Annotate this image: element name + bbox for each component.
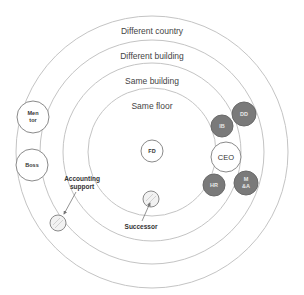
annotation-accounting-line1: Accounting: [64, 175, 100, 183]
node-mentor-label-line2: tor: [29, 117, 37, 123]
node-successor: [143, 191, 159, 207]
ring-label-different-building: Different building: [120, 51, 184, 61]
node-ceo-label: CEO: [218, 153, 234, 162]
ring-label-same-building: Same building: [125, 76, 179, 86]
node-dd: DD: [232, 102, 256, 126]
node-accounting-support: [50, 215, 66, 231]
node-dd-label: DD: [240, 111, 248, 117]
node-fd-label: FD: [148, 148, 155, 154]
node-hr: HR: [203, 174, 225, 196]
node-ma-label-line2: &A: [242, 183, 250, 189]
node-ceo: CEO: [211, 142, 241, 172]
ring-label-different-country: Different country: [121, 26, 184, 36]
arrow-accounting: [64, 192, 76, 214]
annotation-accounting-line2: support: [70, 183, 95, 191]
node-ib: IB: [211, 115, 233, 137]
node-ma-label-line1: M: [244, 176, 249, 182]
node-ma: M &A: [234, 171, 258, 195]
node-mentor-label-line1: Men: [28, 110, 40, 116]
annotation-successor: Successor: [125, 223, 158, 230]
node-boss: Boss: [16, 149, 48, 181]
ring-label-same-floor: Same floor: [131, 101, 172, 111]
node-ib-label: IB: [219, 123, 225, 129]
node-boss-label: Boss: [25, 162, 38, 168]
node-hr-label: HR: [210, 182, 218, 188]
node-mentor: Men tor: [17, 101, 49, 133]
proximity-diagram: Different country Different building Sam…: [0, 0, 304, 295]
node-fd: FD: [141, 140, 163, 162]
